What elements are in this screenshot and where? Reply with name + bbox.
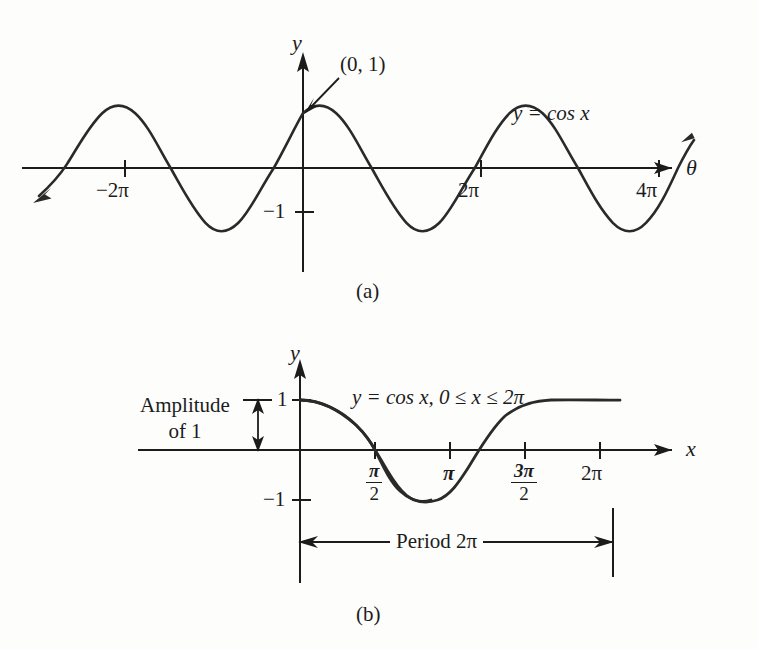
equation-label-b: y = cos x, 0 ≤ x ≤ 2π: [352, 387, 524, 408]
x-tick-label-2pi-b: 2π: [581, 463, 602, 484]
y-axis-b: [294, 359, 306, 583]
x-tick-label-neg-2pi: −2π: [96, 180, 129, 201]
y-tick-label-neg-1-b: −1: [263, 489, 285, 510]
theta-axis-label-a: θ: [686, 157, 697, 179]
point-label-0-1: (0, 1): [340, 54, 386, 75]
y-tick-label-1-b: 1: [277, 389, 288, 410]
x-tick-label-pi: π: [443, 463, 454, 484]
x-axis-b: [138, 444, 672, 456]
x-tick-label-pi-over-2: π 2: [366, 461, 382, 504]
point-callout-arrow-a: [304, 78, 339, 114]
y-axis-label-b: y: [290, 342, 300, 364]
x-tick-label-4pi-a: 4π: [636, 180, 657, 201]
cosine-graphs-figure: y θ (0, 1) y = cos x −2π 2π 4π −1 (a): [0, 0, 758, 649]
amplitude-label: Amplitude of 1: [120, 393, 250, 444]
x-tick-label-2pi-a: 2π: [458, 180, 479, 201]
frac-denominator: 2: [366, 483, 382, 504]
panel-a: y θ (0, 1) y = cos x −2π 2π 4π −1 (a): [0, 0, 758, 330]
frac-numerator: π: [366, 461, 382, 483]
x-axis-label-b: x: [686, 438, 696, 460]
caption-a: (a): [356, 281, 379, 302]
curve-arrow-left-a: [33, 188, 52, 203]
caption-b: (b): [356, 604, 381, 625]
equation-label-a: y = cos x: [513, 103, 590, 124]
y-tick-label-neg-1-a: −1: [263, 201, 285, 222]
amplitude-label-line2: of 1: [168, 419, 201, 443]
panel-b: y x y = cos x, 0 ≤ x ≤ 2π 1 −1 Amplitude…: [0, 330, 758, 649]
y-axis-label-a: y: [292, 32, 302, 54]
curve-arrow-right-a: [681, 128, 703, 150]
x-tick-label-3pi-over-2: 3π 2: [511, 461, 537, 504]
frac-numerator: 3π: [511, 461, 537, 483]
frac-denominator: 2: [511, 483, 537, 504]
period-label: Period 2π: [390, 531, 483, 552]
amplitude-label-line1: Amplitude: [140, 393, 230, 417]
y-axis-a: [297, 52, 309, 272]
